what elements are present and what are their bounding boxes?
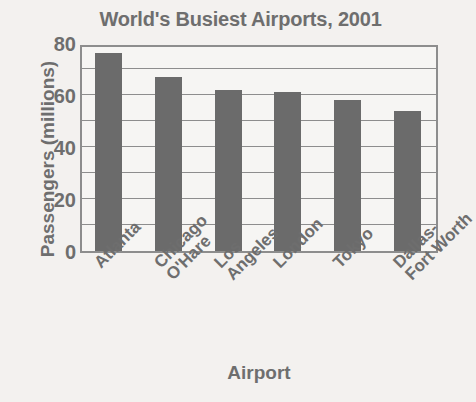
x-axis-tick-labels: AtlantaChicagoO'HareLosAngelesLondonToky… xyxy=(80,253,438,363)
gridline xyxy=(82,68,436,69)
y-tick-label: 80 xyxy=(42,34,76,54)
bar[interactable] xyxy=(95,53,122,251)
bar[interactable] xyxy=(274,92,301,251)
gridline xyxy=(82,172,436,173)
bar[interactable] xyxy=(215,90,242,251)
y-tick-label: 60 xyxy=(42,86,76,106)
y-tick-label: 40 xyxy=(42,138,76,158)
gridline xyxy=(82,94,436,95)
bar[interactable] xyxy=(155,77,182,251)
gridline xyxy=(82,120,436,121)
y-tick-label: 20 xyxy=(42,190,76,210)
gridline xyxy=(82,198,436,199)
y-tick-label: 0 xyxy=(42,242,76,262)
gridline xyxy=(82,146,436,147)
bar[interactable] xyxy=(334,100,361,251)
y-axis-tick-labels: 806040200 xyxy=(38,0,76,402)
x-axis-title: Airport xyxy=(80,362,438,384)
